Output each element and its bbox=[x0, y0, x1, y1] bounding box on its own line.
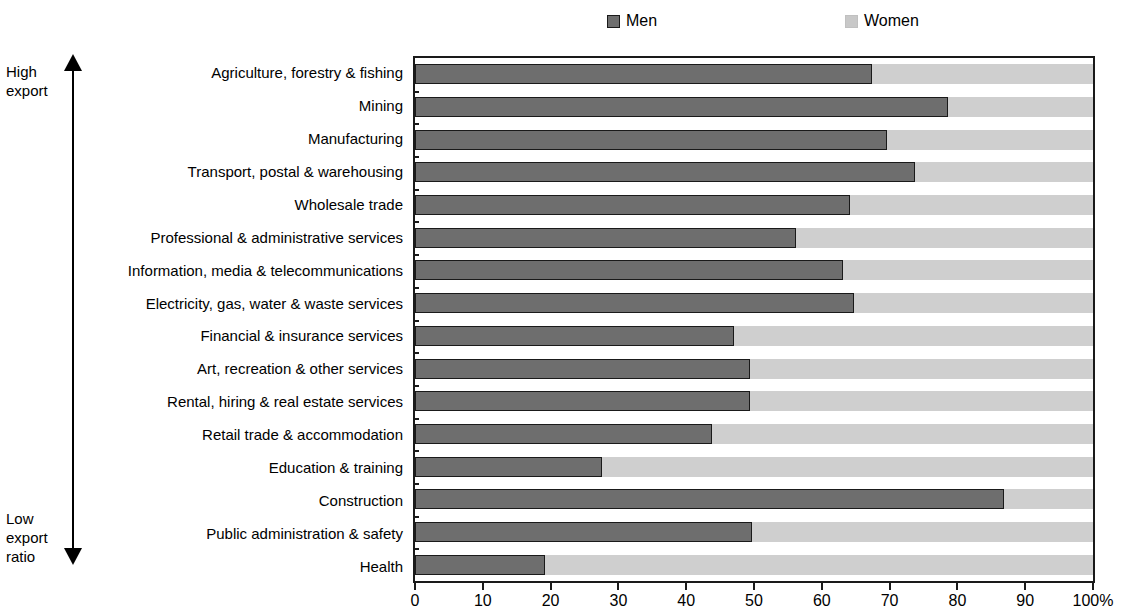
bar-row bbox=[415, 516, 1093, 549]
category-label: Wholesale trade bbox=[96, 188, 408, 221]
chart-container: Men Women High export Low export ratio A… bbox=[0, 0, 1129, 615]
bar-row bbox=[415, 58, 1093, 91]
x-axis-tick bbox=[482, 583, 484, 590]
x-axis-tick-label: 0 bbox=[411, 591, 420, 611]
bar-row bbox=[415, 91, 1093, 124]
x-axis-tick-label: 30 bbox=[609, 591, 627, 611]
x-axis-tick-label: 50 bbox=[745, 591, 763, 611]
bar-row bbox=[415, 450, 1093, 483]
bar-segment-men bbox=[415, 195, 850, 215]
bar-segment-men bbox=[415, 260, 843, 280]
x-axis-tick-label: 90 bbox=[1016, 591, 1034, 611]
bar-row bbox=[415, 548, 1093, 581]
category-label: Professional & administrative services bbox=[96, 221, 408, 254]
bar-segment-men bbox=[415, 457, 602, 477]
high-export-label: High export bbox=[6, 62, 48, 100]
x-axis-tick bbox=[1024, 583, 1026, 590]
bar-segment-men bbox=[415, 555, 545, 575]
bar-row bbox=[415, 483, 1093, 516]
bar-segment-men bbox=[415, 359, 750, 379]
x-axis-tick-label: 40 bbox=[677, 591, 695, 611]
arrow-line bbox=[72, 68, 74, 556]
category-label: Information, media & telecommunications bbox=[96, 254, 408, 287]
legend-label-women: Women bbox=[864, 12, 919, 30]
x-axis-tick-label: 60 bbox=[813, 591, 831, 611]
category-label: Education & training bbox=[96, 451, 408, 484]
x-axis-tick-label: 10 bbox=[474, 591, 492, 611]
bar-segment-men bbox=[415, 489, 1004, 509]
x-axis-tick bbox=[685, 583, 687, 590]
x-axis: 0102030405060708090100% bbox=[413, 583, 1095, 615]
x-axis-tick bbox=[753, 583, 755, 590]
bar-segment-men bbox=[415, 391, 750, 411]
category-label: Transport, postal & warehousing bbox=[96, 155, 408, 188]
category-label: Electricity, gas, water & waste services bbox=[96, 287, 408, 320]
x-axis-tick-label: 70 bbox=[881, 591, 899, 611]
category-label-list: Agriculture, forestry & fishingMiningMan… bbox=[96, 56, 408, 583]
category-label: Rental, hiring & real estate services bbox=[96, 385, 408, 418]
plot-area bbox=[413, 56, 1095, 583]
x-axis-tick-label: 80 bbox=[948, 591, 966, 611]
category-label: Public administration & safety bbox=[96, 517, 408, 550]
bar-row bbox=[415, 123, 1093, 156]
x-axis-tick bbox=[414, 583, 416, 590]
bar-segment-men bbox=[415, 130, 887, 150]
bar-segment-men bbox=[415, 522, 752, 542]
legend-swatch-men-icon bbox=[607, 15, 620, 28]
x-axis-tick-label: 100% bbox=[1073, 591, 1114, 611]
category-label: Financial & insurance services bbox=[96, 320, 408, 353]
bar-row bbox=[415, 156, 1093, 189]
bar-segment-men bbox=[415, 64, 872, 84]
bar-row bbox=[415, 320, 1093, 353]
x-axis-tick bbox=[821, 583, 823, 590]
category-label: Agriculture, forestry & fishing bbox=[96, 56, 408, 89]
x-axis-tick-label: 20 bbox=[542, 591, 560, 611]
export-ratio-axis-annotation: High export Low export ratio bbox=[0, 52, 100, 572]
category-label: Construction bbox=[96, 484, 408, 517]
category-label: Manufacturing bbox=[96, 122, 408, 155]
bar-row bbox=[415, 189, 1093, 222]
arrow-down-icon bbox=[64, 548, 82, 565]
bar-row bbox=[415, 352, 1093, 385]
x-axis-tick bbox=[550, 583, 552, 590]
bar-segment-men bbox=[415, 326, 734, 346]
legend-item-men: Men bbox=[607, 12, 657, 30]
bar-row bbox=[415, 287, 1093, 320]
bar-row bbox=[415, 385, 1093, 418]
chart-legend: Men Women bbox=[0, 8, 1129, 38]
bar-segment-men bbox=[415, 97, 948, 117]
low-export-ratio-label: Low export ratio bbox=[6, 509, 48, 566]
bar-row bbox=[415, 254, 1093, 287]
bar-row bbox=[415, 418, 1093, 451]
category-label: Health bbox=[96, 550, 408, 583]
bar-rows bbox=[415, 58, 1093, 581]
category-label: Mining bbox=[96, 89, 408, 122]
x-axis-tick bbox=[617, 583, 619, 590]
legend-item-women: Women bbox=[845, 12, 919, 30]
category-label: Art, recreation & other services bbox=[96, 352, 408, 385]
bar-segment-men bbox=[415, 162, 915, 182]
bar-segment-men bbox=[415, 293, 854, 313]
bar-segment-men bbox=[415, 228, 796, 248]
x-axis-tick bbox=[889, 583, 891, 590]
category-label: Retail trade & accommodation bbox=[96, 418, 408, 451]
legend-swatch-women-icon bbox=[845, 15, 858, 28]
legend-label-men: Men bbox=[626, 12, 657, 30]
x-axis-tick bbox=[1092, 583, 1094, 590]
bar-row bbox=[415, 221, 1093, 254]
bar-segment-men bbox=[415, 424, 712, 444]
x-axis-tick bbox=[956, 583, 958, 590]
